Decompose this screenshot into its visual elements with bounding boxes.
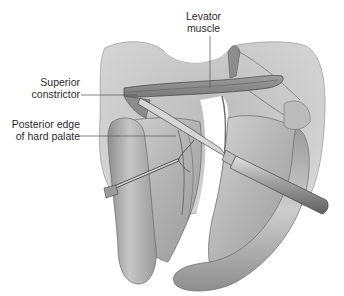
surgical-illustration: Levator muscle Superior constrictor Post… — [0, 0, 344, 296]
anatomy-drawing — [0, 0, 344, 296]
superior-constrictor-label: Superior constrictor — [20, 76, 80, 100]
levator-muscle-label: Levator muscle — [186, 10, 221, 34]
posterior-edge-label: Posterior edge of hard palate — [6, 118, 80, 142]
